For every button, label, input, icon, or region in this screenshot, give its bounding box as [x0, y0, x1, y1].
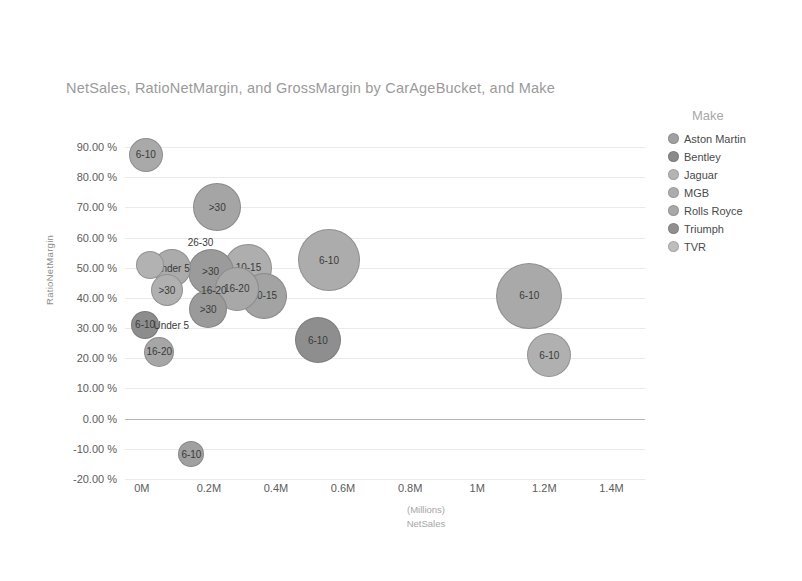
bubble-point[interactable]: >30 [151, 274, 183, 306]
bubble-label: 6-10 [539, 350, 559, 361]
bubble-point[interactable] [136, 251, 164, 279]
bubble-data-label: 16-20 [201, 284, 227, 295]
x-axis-tick-label: 1.2M [532, 482, 556, 494]
legend-swatch-icon [668, 241, 679, 252]
legend-swatch-icon [668, 205, 679, 216]
y-axis-tick-label: 30.00 % [77, 322, 117, 334]
bubble-point[interactable]: 16-20 [144, 337, 174, 367]
bubble-label: >30 [202, 266, 219, 277]
zero-axis-line [125, 419, 645, 420]
bubble-point[interactable]: >30 [189, 290, 227, 328]
y-axis-title: RatioNetMargin [44, 235, 55, 305]
x-axis-title: NetSales [0, 518, 802, 529]
gridline [125, 388, 645, 389]
legend-item[interactable]: TVR [668, 238, 798, 255]
x-axis-tick-label: 0.2M [197, 482, 221, 494]
y-axis-tick-label: 40.00 % [77, 292, 117, 304]
x-axis-unit: (Millions) [0, 504, 802, 515]
gridline [125, 177, 645, 178]
y-axis-tick-label: 20.00 % [77, 352, 117, 364]
x-axis-tick-label: 0.6M [331, 482, 355, 494]
bubble-point[interactable]: 6-10 [298, 229, 360, 291]
legend-item-label: Triumph [684, 223, 724, 235]
bubble-label: 6-10 [136, 149, 156, 160]
legend-swatch-icon [668, 133, 679, 144]
plot-area: 6-106-10>3010-15>3010-156-1016-206-10Und… [125, 132, 645, 479]
legend-swatch-icon [668, 187, 679, 198]
y-axis-tick-label: 70.00 % [77, 201, 117, 213]
legend-item-label: Aston Martin [684, 133, 746, 145]
page-title: NetSales, RatioNetMargin, and GrossMargi… [66, 80, 555, 96]
bubble-data-label: 26-30 [188, 237, 214, 248]
gridline [125, 147, 645, 148]
bubble-label: 6-10 [519, 290, 539, 301]
bubble-point[interactable]: 6-10 [527, 333, 571, 377]
legend: Make Aston MartinBentleyJaguarMGBRolls R… [668, 108, 798, 256]
y-axis-tick-label: 90.00 % [77, 141, 117, 153]
y-axis-tick-label: 10.00 % [77, 382, 117, 394]
bubble-label: 6-10 [181, 449, 201, 460]
y-axis-tick-label: -20.00 % [73, 473, 117, 485]
x-axis-ticks: 0M0.2M0.4M0.6M0.8M1M1.2M1.4M [125, 482, 645, 498]
bubble-point[interactable]: 6-10 [496, 263, 562, 329]
legend-swatch-icon [668, 223, 679, 234]
x-axis-tick-label: 0M [134, 482, 149, 494]
bubble-point[interactable]: 6-10 [178, 441, 204, 467]
x-axis-tick-label: 1M [470, 482, 485, 494]
bubble-label: 16-20 [224, 283, 250, 294]
bubble-point[interactable]: 6-10 [295, 317, 341, 363]
bubble-data-label: Under 5 [153, 319, 189, 330]
legend-items: Aston MartinBentleyJaguarMGBRolls RoyceT… [668, 130, 798, 255]
legend-item[interactable]: MGB [668, 184, 798, 201]
legend-item-label: Rolls Royce [684, 205, 743, 217]
bubble-label: 6-10 [308, 335, 328, 346]
legend-item-label: MGB [684, 187, 709, 199]
x-axis-tick-label: 0.8M [398, 482, 422, 494]
x-axis-tick-label: 0.4M [264, 482, 288, 494]
y-axis-ticks: 90.00 %80.00 %70.00 %60.00 %50.00 %40.00… [55, 132, 117, 479]
legend-item[interactable]: Triumph [668, 220, 798, 237]
bubble-label: 6-10 [319, 255, 339, 266]
bubble-point[interactable]: >30 [193, 183, 241, 231]
y-axis-tick-label: -10.00 % [73, 443, 117, 455]
bubble-point[interactable]: 6-10 [129, 138, 163, 172]
y-axis-tick-label: 50.00 % [77, 262, 117, 274]
legend-item-label: Jaguar [684, 169, 718, 181]
legend-swatch-icon [668, 169, 679, 180]
y-axis-tick-label: 60.00 % [77, 232, 117, 244]
y-axis-tick-label: 80.00 % [77, 171, 117, 183]
bubble-label: >30 [209, 202, 226, 213]
x-axis-tick-label: 1.4M [599, 482, 623, 494]
legend-item-label: Bentley [684, 151, 721, 163]
bubble-label: 16-20 [146, 346, 172, 357]
gridline [125, 328, 645, 329]
legend-title: Make [692, 108, 798, 123]
legend-item[interactable]: Aston Martin [668, 130, 798, 147]
bubble-label: 6-10 [135, 319, 155, 330]
legend-item[interactable]: Bentley [668, 148, 798, 165]
legend-item[interactable]: Jaguar [668, 166, 798, 183]
legend-item[interactable]: Rolls Royce [668, 202, 798, 219]
gridline [125, 479, 645, 480]
legend-swatch-icon [668, 151, 679, 162]
y-axis-tick-label: 0.00 % [83, 413, 117, 425]
bubble-label: >30 [158, 285, 175, 296]
legend-item-label: TVR [684, 241, 706, 253]
bubble-label: >30 [200, 304, 217, 315]
bubble-chart: NetSales, RatioNetMargin, and GrossMargi… [0, 0, 802, 581]
